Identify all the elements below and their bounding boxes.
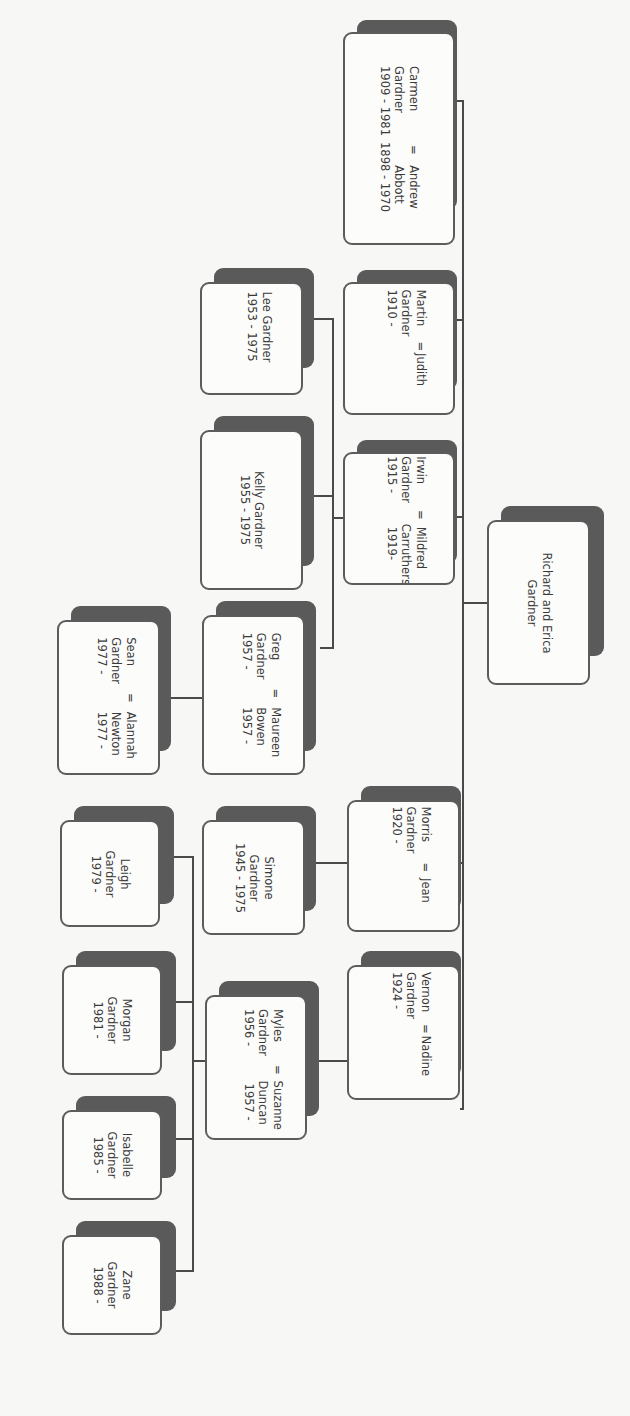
person-surname: Gardner [246, 823, 261, 933]
node-card: Leigh Gardner 1979 - [60, 820, 160, 927]
marriage-symbol: = [406, 139, 421, 162]
person-dates: 1909 - 1981 [377, 63, 392, 139]
person-dates: 1985 - [90, 1112, 105, 1198]
marriage-symbol: = [418, 1021, 433, 1035]
person-name: Morris [418, 804, 433, 857]
node-card: Myles = Suzanne Gardner Duncan 1956 - 19… [205, 995, 307, 1140]
person-dates: 1953 - 1975 [244, 291, 259, 395]
person-dates: 1988 - [90, 1237, 105, 1333]
person-dates: 1981 - [90, 970, 105, 1070]
person-surname: Gardner [109, 634, 124, 687]
person-surname: Gardner [399, 286, 414, 339]
person-surname: Gardner [404, 804, 419, 857]
person-name: Zane [119, 1237, 134, 1333]
node-card: Martin = Judith Gardner 1910 - [343, 282, 455, 415]
marriage-symbol: = [271, 1058, 286, 1080]
person-surname: Gardner [392, 63, 407, 139]
spouse-surname: Newton [109, 708, 124, 761]
person-surname: Gardner [404, 969, 419, 1022]
spouse-surname: Bowen [254, 704, 269, 760]
person-dates: 1945 - 1975 [232, 823, 247, 933]
node-card: Vernon = Nadine Gardner 1924 - [347, 965, 460, 1100]
person-name: Myles [271, 1006, 286, 1059]
node-card: Carmen = Andrew Gardner Abbott 1909 - 19… [343, 32, 455, 245]
root-line1: Richard and Erica [539, 528, 554, 678]
branch-greg [320, 647, 334, 649]
person-name: Morgan [119, 970, 134, 1070]
node-card: Lee Gardner 1953 - 1975 [200, 282, 303, 395]
person-dates: 1920 - [389, 804, 404, 857]
node-card: Zane Gardner 1988 - [62, 1235, 162, 1335]
spouse-dates: 1898 - 1970 [377, 139, 392, 215]
person-name: Martin [414, 286, 429, 339]
node-card: Greg = Maureen Gardner Bowen 1957 - 1957… [202, 615, 305, 775]
marriage-symbol: = [123, 687, 138, 709]
gen1-branch-vernon [460, 1108, 464, 1110]
node-card: Irwin = Mildred Gardner Carruthers 1915 … [343, 452, 455, 585]
person-surname: Gardner [399, 453, 414, 506]
node-card: Isabelle Gardner 1985 - [62, 1110, 162, 1200]
marriage-symbol: = [414, 506, 429, 524]
node-card: Simone Gardner 1945 - 1975 [202, 820, 305, 935]
node-card: Richard and Erica Gardner [487, 520, 590, 685]
spouse-name: Nadine [418, 1035, 433, 1076]
person-name: Isabelle [119, 1112, 134, 1198]
marriage-symbol: = [268, 683, 283, 705]
spouse-name: Suzanne [271, 1080, 286, 1129]
node-zane: Zane Gardner 1988 - [62, 1235, 162, 1335]
person-surname: Gardner [105, 1112, 120, 1198]
node-simone: Simone Gardner 1945 - 1975 [202, 820, 305, 935]
node-richard-erica: Richard and Erica Gardner [487, 520, 590, 685]
spouse-surname: Abbott [392, 162, 407, 215]
person-surname: Gardner [103, 824, 118, 924]
person-dates: 1977 - [94, 634, 109, 687]
node-morgan: Morgan Gardner 1981 - [62, 965, 162, 1075]
node-isabelle: Isabelle Gardner 1985 - [62, 1110, 162, 1200]
node-leigh: Leigh Gardner 1979 - [60, 820, 160, 927]
root-line2: Gardner [524, 528, 539, 678]
spouse-name: Alannah [123, 708, 138, 761]
person-surname: Gardner [105, 970, 120, 1070]
person-name: Carmen [406, 63, 421, 139]
person-dates: 1910 - [385, 286, 400, 339]
node-sean-alannah: Sean = Alannah Gardner Newton 1977 - 197… [57, 620, 160, 775]
person-name: Leigh [117, 824, 132, 924]
person-surname: Gardner [254, 630, 269, 683]
node-myles-suzanne: Myles = Suzanne Gardner Duncan 1956 - 19… [205, 995, 307, 1140]
node-carmen-andrew: Carmen = Andrew Gardner Abbott 1909 - 19… [343, 32, 455, 245]
person-name: Kelly Gardner [252, 435, 267, 585]
spouse-name: Judith [414, 353, 429, 386]
node-card: Sean = Alannah Gardner Newton 1977 - 197… [57, 620, 160, 775]
marriage-symbol: = [418, 856, 433, 878]
node-kelly: Kelly Gardner 1955 - 1975 [200, 430, 303, 590]
person-surname: Gardner [105, 1237, 120, 1333]
person-dates: 1979 - [88, 824, 103, 924]
irwin-children-trunk [332, 318, 334, 648]
person-name: Simone [261, 823, 276, 933]
root-connector [462, 602, 487, 604]
node-card: Morris = Jean Gardner 1920 - [347, 800, 460, 932]
gen1-trunk [462, 100, 464, 1110]
person-dates: 1924 - [389, 969, 404, 1022]
spouse-dates: 1919- [385, 523, 400, 584]
spouse-name: Andrew [406, 162, 421, 215]
person-name: Lee Gardner [259, 291, 274, 395]
spouse-surname: Carruthers [399, 523, 414, 584]
spouse-dates: 1977 - [94, 708, 109, 761]
person-surname: Gardner [256, 1006, 271, 1059]
spouse-name: Mildred [414, 523, 429, 584]
node-morris-jean: Morris = Jean Gardner 1920 - [347, 800, 460, 932]
person-dates: 1957 - [239, 630, 254, 683]
person-name: Sean [123, 634, 138, 687]
irwin-connector [333, 517, 343, 519]
marriage-symbol: = [414, 339, 429, 353]
spouse-dates: 1957 - [242, 1080, 257, 1129]
person-name: Vernon [418, 969, 433, 1022]
spouse-name: Maureen [268, 704, 283, 760]
node-card: Morgan Gardner 1981 - [62, 965, 162, 1075]
node-irwin-mildred: Irwin = Mildred Gardner Carruthers 1915 … [343, 452, 455, 585]
person-name: Irwin [414, 453, 429, 506]
spouse-surname: Duncan [256, 1080, 271, 1129]
person-name: Greg [268, 630, 283, 683]
myles-children-trunk [192, 856, 194, 1272]
